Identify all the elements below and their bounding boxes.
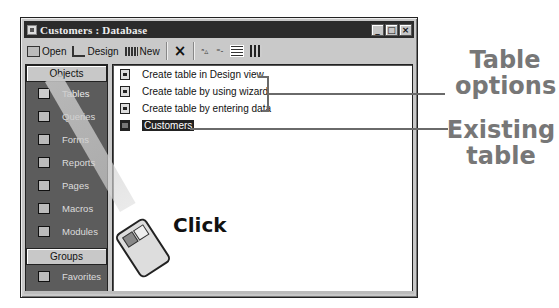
callout-line2: table (446, 143, 556, 169)
design-icon (72, 46, 85, 57)
sidebar-item-label: Favorites (62, 271, 101, 282)
callout-line-table-options (267, 93, 445, 95)
new-icon (125, 47, 138, 56)
title-bar[interactable]: Customers : Database _ □ × (24, 21, 414, 38)
list-item[interactable]: Create table by entering data (120, 103, 271, 114)
open-icon (27, 46, 40, 57)
sidebar-item-label: Macros (62, 203, 93, 214)
shortcut-icon (120, 103, 130, 114)
report-icon (38, 157, 50, 168)
design-button[interactable]: Design (69, 41, 121, 61)
callout-line1: Existing (446, 117, 556, 143)
small-icons-icon[interactable]: ⁼‐ (212, 47, 227, 56)
list-item-label: Create table by using wizard (142, 86, 268, 97)
toolbar-separator (193, 42, 194, 60)
list-view-icon[interactable] (250, 45, 262, 57)
list-item-label: Create table by entering data (142, 103, 271, 114)
click-label: Click (173, 213, 227, 237)
open-button[interactable]: Open (24, 41, 69, 61)
new-label: New (140, 46, 160, 57)
sidebar-item-pages[interactable]: Pages (26, 174, 107, 197)
callout-line1: Table (455, 47, 555, 73)
details-view-icon[interactable] (230, 45, 244, 57)
list-item-customers[interactable]: Customers (120, 120, 194, 131)
close-button[interactable]: × (399, 24, 412, 36)
table-icon (120, 120, 130, 131)
sidebar-item-favorites[interactable]: Favorites (26, 265, 107, 288)
database-window: Customers : Database _ □ × Open Design N… (20, 17, 418, 298)
window-title: Customers : Database (40, 24, 371, 36)
toolbar-separator (166, 42, 167, 60)
open-label: Open (42, 46, 66, 57)
new-button[interactable]: New (122, 41, 163, 61)
query-icon (38, 111, 50, 122)
existing-table-callout: Existing table (446, 117, 556, 169)
sidebar-item-label: Pages (62, 180, 89, 191)
minimize-button[interactable]: _ (371, 24, 384, 36)
sidebar-item-macros[interactable]: Macros (26, 197, 107, 220)
design-label: Design (87, 46, 118, 57)
large-icons-icon[interactable]: ᵃ▵ (197, 47, 212, 56)
callout-line (262, 110, 269, 112)
sidebar-item-modules[interactable]: Modules (26, 220, 107, 243)
database-icon (27, 25, 37, 35)
table-icon (38, 88, 50, 99)
list-item[interactable]: Create table by using wizard (120, 86, 268, 97)
shortcut-icon (120, 86, 130, 97)
callout-line2: options (455, 73, 555, 99)
macro-icon (38, 203, 50, 214)
sidebar-item-label: Modules (62, 226, 98, 237)
list-item-label: Create table in Design view (142, 69, 264, 80)
shortcut-icon (120, 69, 130, 80)
callout-line-existing-table (190, 128, 448, 130)
groups-header[interactable]: Groups (26, 248, 107, 265)
delete-icon[interactable]: × (170, 42, 191, 60)
module-icon (38, 226, 50, 237)
list-item[interactable]: Create table in Design view (120, 69, 264, 80)
window-bottom-edge (24, 291, 414, 294)
maximize-button[interactable]: □ (385, 24, 398, 36)
toolbar: Open Design New × ᵃ▵ ⁼‐ (24, 40, 414, 62)
list-item-label: Customers (142, 120, 194, 131)
objects-header[interactable]: Objects (26, 65, 107, 82)
form-icon (38, 134, 50, 145)
table-options-callout: Table options (455, 47, 555, 99)
page-icon (38, 180, 50, 191)
folder-icon (38, 271, 50, 282)
